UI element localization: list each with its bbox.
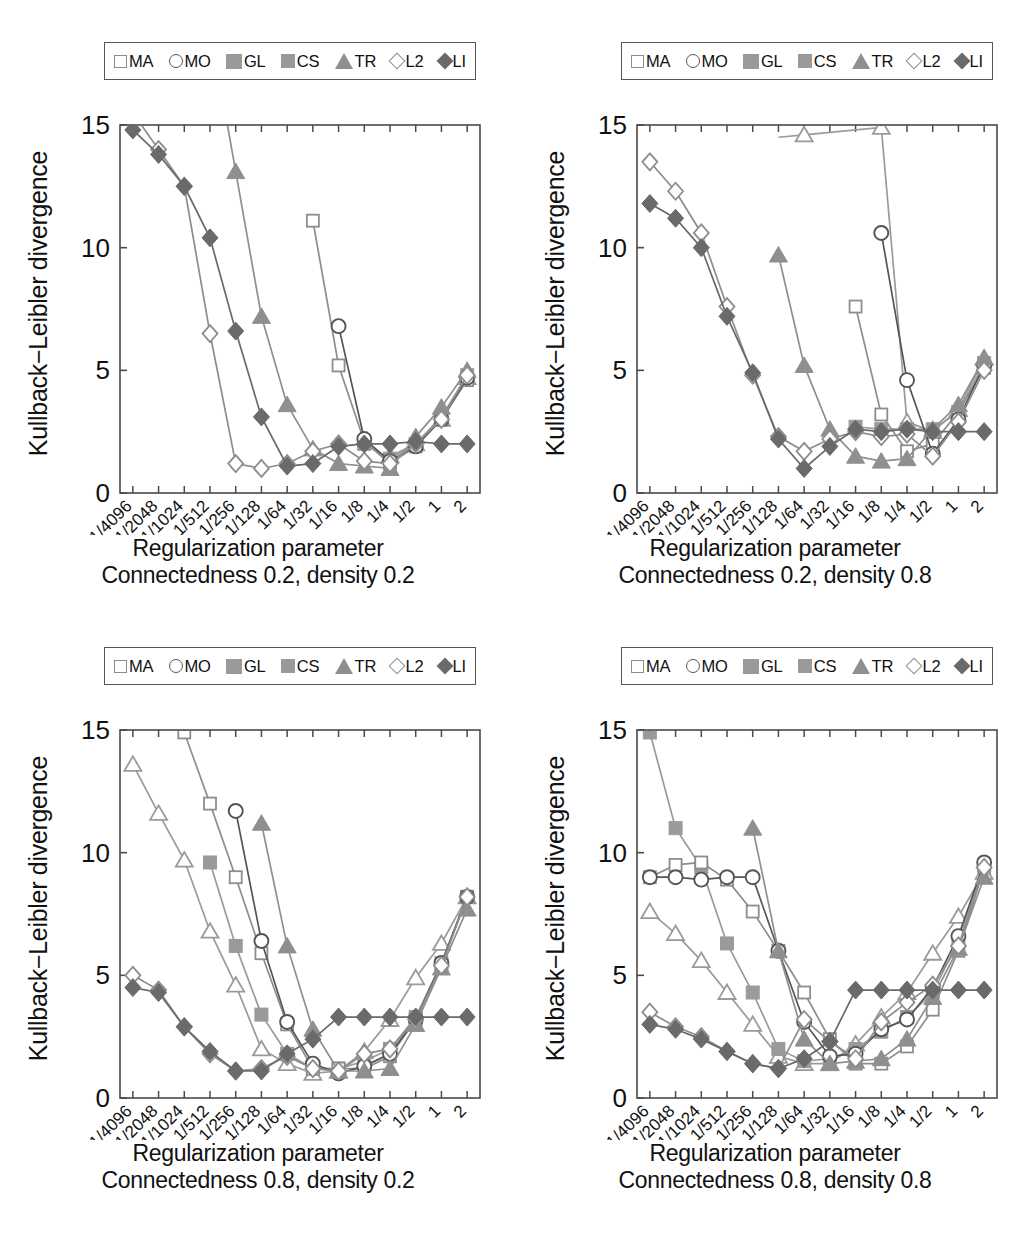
- caption-line-xlabel: Regularization parameter: [0, 535, 516, 562]
- data-point-li: [433, 1008, 449, 1026]
- data-point-li: [356, 1008, 372, 1026]
- data-point-mo: [669, 870, 683, 884]
- series-line-mo: [236, 811, 467, 1074]
- x-tick-label: 2: [967, 1101, 987, 1121]
- series-group: [124, 661, 476, 1080]
- x-tick-label: 1/16: [822, 496, 859, 533]
- data-point-mo: [332, 319, 346, 333]
- data-point-li: [305, 455, 321, 473]
- panel-caption: Regularization parameterConnectedness 0.…: [0, 535, 516, 589]
- x-tick-label: 1/16: [305, 1101, 342, 1138]
- data-point-gl: [176, 852, 193, 867]
- figure-root: MAMOGLCSTRL2LIKullback−Leibler divergenc…: [0, 0, 1033, 1243]
- data-point-li: [228, 1062, 244, 1080]
- y-tick-label: 5: [96, 355, 110, 385]
- axis-frame: [120, 125, 480, 493]
- series-line-tr: [753, 828, 984, 1064]
- data-point-li: [950, 981, 966, 999]
- x-tick-label: 1/4: [363, 496, 393, 526]
- data-point-mo: [643, 870, 657, 884]
- data-point-mo: [746, 870, 760, 884]
- data-point-cs: [772, 1042, 785, 1055]
- caption-line-xlabel: Regularization parameter: [517, 535, 1033, 562]
- series-group: [641, 726, 993, 1078]
- y-tick-label: 0: [96, 1083, 110, 1113]
- data-point-gl: [744, 1016, 761, 1031]
- series-group: [642, 119, 993, 477]
- data-point-mo: [280, 1015, 294, 1029]
- x-tick-label: 1/2: [388, 496, 418, 526]
- data-point-ma: [798, 987, 810, 999]
- caption-line-condition: Connectedness 0.2, density 0.8: [517, 562, 1033, 589]
- x-tick-label: 1: [424, 496, 444, 516]
- x-tick-label: 1/4: [880, 1101, 910, 1131]
- data-point-tr: [252, 815, 270, 831]
- y-tick-label: 5: [613, 355, 627, 385]
- data-point-li: [848, 981, 864, 999]
- data-point-ma: [307, 215, 319, 227]
- data-point-gl: [253, 1041, 270, 1056]
- data-point-li: [331, 1008, 347, 1026]
- y-tick-label: 5: [613, 960, 627, 990]
- data-point-tr: [744, 820, 762, 836]
- data-point-li: [382, 435, 398, 453]
- data-point-l2: [254, 460, 269, 477]
- series-line-l2: [133, 113, 467, 469]
- data-point-li: [745, 364, 761, 382]
- x-tick-label: 1/8: [854, 1101, 884, 1131]
- data-point-gl: [202, 923, 219, 938]
- data-point-cs: [255, 1008, 268, 1021]
- data-point-gl: [407, 970, 424, 985]
- x-tick-label: 1/8: [854, 496, 884, 526]
- data-point-mo: [900, 1012, 914, 1026]
- data-point-li: [976, 423, 992, 441]
- data-point-gl: [719, 985, 736, 1000]
- series-line-gl: [778, 127, 984, 431]
- x-tick-label: 1/8: [337, 496, 367, 526]
- y-tick-label: 15: [598, 110, 627, 140]
- data-point-cs: [669, 822, 682, 835]
- data-point-ma: [875, 408, 887, 420]
- data-point-li: [202, 229, 218, 247]
- y-tick-label: 10: [81, 233, 110, 263]
- data-point-li: [253, 408, 269, 426]
- panel-c08-d08: MAMOGLCSTRL2LIKullback−Leibler divergenc…: [517, 620, 1033, 1220]
- x-tick-label: 2: [450, 496, 470, 516]
- data-point-cs: [643, 726, 656, 739]
- x-tick-label: 1: [941, 496, 961, 516]
- y-tick-label: 15: [598, 715, 627, 745]
- y-tick-label: 10: [598, 233, 627, 263]
- data-point-cs: [204, 856, 217, 869]
- y-tick-label: 0: [613, 1083, 627, 1113]
- caption-line-condition: Connectedness 0.8, density 0.2: [0, 1167, 516, 1194]
- caption-line-xlabel: Regularization parameter: [517, 1140, 1033, 1167]
- panel-c02-d02: MAMOGLCSTRL2LIKullback−Leibler divergenc…: [0, 15, 516, 615]
- data-point-gl: [227, 977, 244, 992]
- plot-area: 0510151/40961/20481/10241/5121/2561/1281…: [517, 15, 1033, 535]
- axis-frame: [637, 125, 997, 493]
- data-point-cs: [746, 986, 759, 999]
- data-point-ma: [695, 856, 707, 868]
- y-tick-label: 15: [81, 110, 110, 140]
- panel-c08-d02: MAMOGLCSTRL2LIKullback−Leibler divergenc…: [0, 620, 516, 1220]
- x-tick-label: 1/16: [822, 1101, 859, 1138]
- series-line-tr: [210, 27, 467, 469]
- data-point-mo: [900, 373, 914, 387]
- panel-caption: Regularization parameterConnectedness 0.…: [517, 1140, 1033, 1194]
- data-point-tr: [330, 455, 348, 471]
- data-point-li: [459, 1008, 475, 1026]
- x-tick-label: 1/2: [388, 1101, 418, 1131]
- caption-line-condition: Connectedness 0.2, density 0.2: [0, 562, 516, 589]
- y-tick-label: 15: [81, 715, 110, 745]
- x-tick-label: 2: [450, 1101, 470, 1121]
- data-point-ma: [747, 906, 759, 918]
- data-point-ma: [204, 798, 216, 810]
- data-point-li: [331, 437, 347, 455]
- x-tick-label: 1/4: [880, 496, 910, 526]
- series-line-ma: [313, 221, 467, 464]
- y-tick-label: 10: [81, 838, 110, 868]
- x-tick-label: 2: [967, 496, 987, 516]
- data-point-ma: [850, 301, 862, 313]
- axis-frame: [637, 730, 997, 1098]
- x-tick-label: 1: [424, 1101, 444, 1121]
